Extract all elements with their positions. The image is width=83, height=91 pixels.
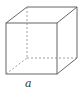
visible-edges: [6, 7, 77, 74]
front-face: [6, 23, 57, 74]
cube-diagram: [0, 0, 83, 91]
top-left-depth-edge: [6, 7, 27, 23]
bottom-right-depth-edge: [57, 58, 77, 74]
top-right-depth-edge: [57, 7, 77, 23]
hidden-edges: [6, 7, 77, 74]
figure-caption: a: [25, 78, 32, 89]
hidden-bottom-left-depth-edge: [6, 58, 27, 74]
